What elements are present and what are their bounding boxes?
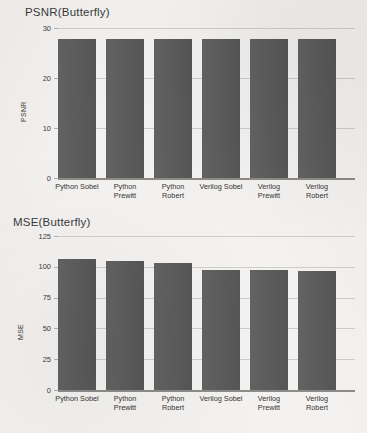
psnr-chart-title: PSNR(Butterfly) bbox=[25, 6, 110, 18]
bar bbox=[154, 263, 192, 390]
gridline bbox=[60, 267, 355, 268]
mse-y-tick-label: 0 bbox=[20, 386, 51, 395]
mse-y-tick-label: 25 bbox=[20, 355, 51, 364]
y-tick-mark bbox=[54, 236, 59, 237]
x-axis-category-label: Python Prewitt bbox=[99, 183, 151, 200]
mse-y-tick-label: 100 bbox=[20, 262, 51, 271]
psnr-x-axis-line bbox=[58, 178, 355, 180]
x-axis-category-label: Python Sobel bbox=[51, 183, 103, 192]
bar bbox=[202, 39, 240, 179]
mse-y-tick-label: 125 bbox=[20, 232, 51, 241]
bar bbox=[58, 259, 96, 390]
bar bbox=[58, 39, 96, 179]
mse-x-axis-line bbox=[58, 390, 355, 392]
psnr-y-axis-label: PSNR bbox=[20, 101, 27, 122]
x-axis-category-label: Python Robert bbox=[147, 395, 199, 412]
bar bbox=[250, 39, 288, 179]
x-axis-category-label: Python Sobel bbox=[51, 395, 103, 404]
psnr-chart: PSNR(Butterfly) PSNR 0102030Python Sobel… bbox=[0, 0, 367, 215]
x-axis-category-label: Python Robert bbox=[147, 183, 199, 200]
bar bbox=[154, 39, 192, 179]
x-axis-category-label: Verilog Prewitt bbox=[243, 395, 295, 412]
bar bbox=[202, 270, 240, 390]
psnr-y-tick-label: 30 bbox=[20, 24, 51, 33]
bar bbox=[298, 271, 336, 390]
mse-chart-title: MSE(Butterfly) bbox=[13, 216, 91, 228]
x-axis-category-label: Verilog Sobel bbox=[195, 183, 247, 192]
x-axis-category-label: Python Prewitt bbox=[99, 395, 151, 412]
psnr-y-tick-label: 10 bbox=[20, 124, 51, 133]
gridline bbox=[60, 236, 355, 237]
x-axis-category-label: Verilog Robert bbox=[291, 395, 343, 412]
gridline bbox=[60, 28, 355, 29]
psnr-y-tick-label: 0 bbox=[20, 174, 51, 183]
x-axis-category-label: Verilog Sobel bbox=[195, 395, 247, 404]
mse-y-tick-label: 75 bbox=[20, 293, 51, 302]
x-axis-category-label: Verilog Robert bbox=[291, 183, 343, 200]
bar bbox=[250, 270, 288, 390]
psnr-y-tick-label: 20 bbox=[20, 74, 51, 83]
mse-y-tick-label: 50 bbox=[20, 324, 51, 333]
x-axis-category-label: Verilog Prewitt bbox=[243, 183, 295, 200]
bar bbox=[106, 39, 144, 179]
bar bbox=[298, 39, 336, 178]
y-tick-mark bbox=[54, 28, 59, 29]
mse-chart: MSE(Butterfly) MSE 0255075100125Python S… bbox=[0, 212, 367, 433]
bar bbox=[106, 261, 144, 390]
